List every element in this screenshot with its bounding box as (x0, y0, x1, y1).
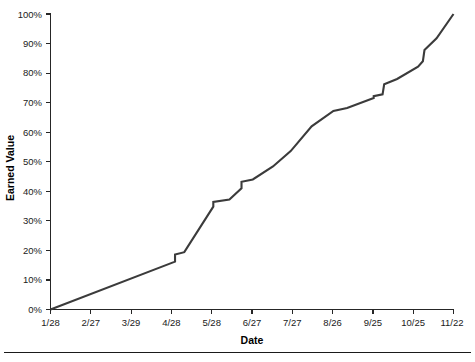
y-tick-label-3: 30% (23, 215, 43, 226)
earned-value-chart-figure: 0% 10% 20% 30% 40% 50% 60% 70% 80% 90% 1… (0, 0, 475, 362)
x-axis-title: Date (241, 334, 264, 346)
y-tick-label-4: 40% (23, 186, 43, 197)
y-tick-label-1: 10% (23, 274, 43, 285)
y-tick-label-5: 50% (23, 156, 43, 167)
y-tick-label-6: 60% (23, 127, 43, 138)
y-tick-label-10: 100% (18, 9, 43, 20)
x-tick-label-3: 4/28 (162, 317, 181, 328)
x-tick-label-4: 5/28 (202, 317, 221, 328)
x-tick-label-7: 8/26 (323, 317, 342, 328)
x-tick-label-0: 1/28 (41, 317, 60, 328)
x-tick-label-5: 6/27 (243, 317, 262, 328)
y-tick-label-7: 70% (23, 97, 43, 108)
earned-value-line (51, 14, 454, 310)
x-tick-label-8: 9/25 (364, 317, 383, 328)
x-tick-label-2: 3/29 (122, 317, 141, 328)
y-tick-label-9: 90% (23, 38, 43, 49)
x-tick-label-9: 10/25 (401, 317, 425, 328)
y-axis-tick-labels: 0% 10% 20% 30% 40% 50% 60% 70% 80% 90% 1… (18, 9, 43, 315)
y-tick-label-8: 80% (23, 67, 43, 78)
x-axis-tick-labels: 1/28 2/27 3/29 4/28 5/28 6/27 7/27 8/26 … (41, 317, 463, 328)
x-tick-label-10: 11/22 (440, 317, 463, 328)
x-tick-label-1: 2/27 (82, 317, 101, 328)
x-tick-label-6: 7/27 (283, 317, 302, 328)
y-tick-label-0: 0% (28, 304, 42, 315)
chart-canvas: 0% 10% 20% 30% 40% 50% 60% 70% 80% 90% 1… (0, 0, 475, 362)
y-tick-label-2: 20% (23, 245, 43, 256)
y-axis-title: Earned Value (4, 135, 16, 201)
